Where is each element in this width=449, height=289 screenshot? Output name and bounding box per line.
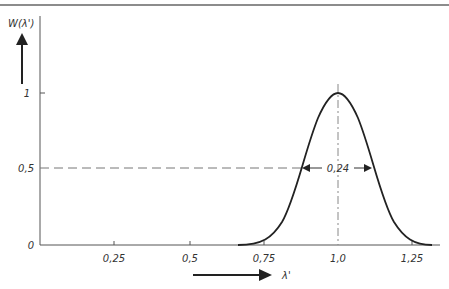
y-tick-label-0: 0 [28, 240, 34, 251]
x-tick-label-125: 1,25 [401, 253, 423, 264]
x-tick-label-05: 0,5 [182, 253, 198, 264]
x-arrow-icon [259, 269, 272, 281]
fwhm-label: 0,24 [327, 163, 349, 174]
chart: 0,24 W(λ') 1 0,5 0 0,25 0,5 0,75 1,0 1,2… [0, 0, 449, 289]
x-tick-label-10: 1,0 [330, 253, 346, 264]
y-tick-label-1: 1 [24, 88, 30, 99]
y-arrow-icon [16, 33, 28, 45]
y-axis-label: W(λ') [8, 18, 34, 29]
x-tick-label-025: 0,25 [103, 253, 125, 264]
x-axis-label: λ' [281, 270, 291, 281]
y-tick-label-05: 0,5 [18, 163, 34, 174]
x-tick-label-075: 0,75 [253, 253, 275, 264]
